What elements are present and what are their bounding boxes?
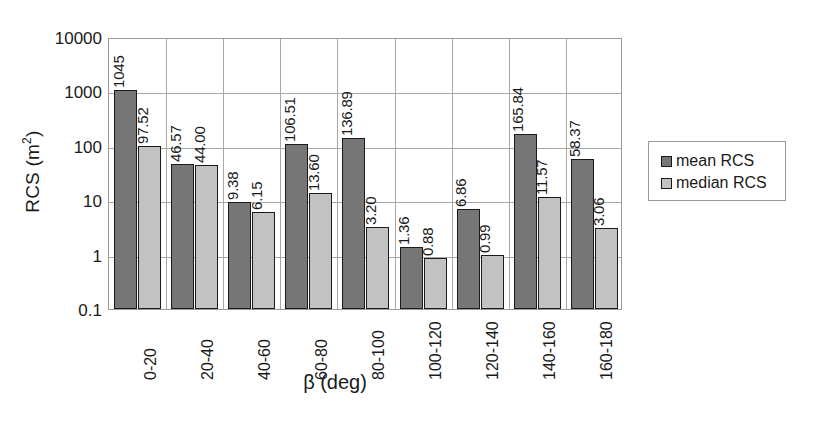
bar-value-label: 6.86 <box>453 179 468 207</box>
y-tick-label: 1000 <box>16 84 102 101</box>
x-tick-label: 120-140 <box>485 321 501 380</box>
bar-median-rcs[interactable]: 3.06 <box>595 228 618 309</box>
bar-group: 1.360.88 <box>395 39 452 309</box>
bar-value-label: 46.57 <box>168 125 183 162</box>
bar-median-rcs[interactable]: 13.60 <box>309 193 332 309</box>
bar-value-label: 1045 <box>111 56 126 89</box>
bar-value-label: 165.84 <box>510 87 525 132</box>
bar-mean-rcs[interactable]: 9.38 <box>228 202 251 309</box>
y-tick-label: 1 <box>16 247 102 264</box>
bar-value-label: 44.00 <box>192 127 207 164</box>
bar-mean-rcs[interactable]: 58.37 <box>571 159 594 309</box>
y-tick-label: 10 <box>16 193 102 210</box>
bar-value-label: 0.88 <box>420 227 435 255</box>
bar-median-rcs[interactable]: 97.52 <box>138 146 161 309</box>
x-tick-label: 140-160 <box>542 321 558 380</box>
bar-median-rcs[interactable]: 3.20 <box>366 227 389 309</box>
bar-value-label: 58.37 <box>567 120 582 157</box>
bar-group: 9.386.15 <box>223 39 280 309</box>
x-axis-title: β (deg) <box>255 371 415 394</box>
bar-mean-rcs[interactable]: 46.57 <box>171 164 194 309</box>
bar-value-label: 9.38 <box>225 171 240 199</box>
bar-group: 165.8411.57 <box>509 39 566 309</box>
bar-group: 58.373.06 <box>566 39 623 309</box>
bar-median-rcs[interactable]: 0.99 <box>481 255 504 309</box>
bar-value-label: 3.20 <box>363 197 378 225</box>
bar-value-label: 106.51 <box>282 98 297 143</box>
y-tick-label: 100 <box>16 138 102 155</box>
bar-median-rcs[interactable]: 44.00 <box>195 165 218 309</box>
x-tick-label: 160-180 <box>599 321 615 380</box>
bar-value-label: 0.99 <box>477 224 492 252</box>
legend-label: mean RCS <box>676 152 754 170</box>
bar-value-label: 3.06 <box>591 198 606 226</box>
bar-groups: 104597.5246.5744.009.386.15106.5113.6013… <box>109 39 621 309</box>
bar-value-label: 136.89 <box>339 92 354 137</box>
chart-legend: mean RCSmedian RCS <box>648 141 786 201</box>
bar-value-label: 6.15 <box>249 181 264 209</box>
bar-median-rcs[interactable]: 0.88 <box>424 258 447 309</box>
bar-value-label: 1.36 <box>396 217 411 245</box>
rcs-bar-chart: RCS (m2) 1000010001001010.1 104597.5246.… <box>0 0 817 425</box>
bar-value-label: 97.52 <box>135 108 150 145</box>
x-tick-label: 0-20 <box>143 348 159 380</box>
bar-group: 106.5113.60 <box>280 39 337 309</box>
y-axis-ticks: 1000010001001010.1 <box>14 0 102 425</box>
bar-group: 136.893.20 <box>337 39 394 309</box>
bar-group: 6.860.99 <box>452 39 509 309</box>
plot-area: 104597.5246.5744.009.386.15106.5113.6013… <box>108 38 622 310</box>
legend-swatch <box>661 178 672 189</box>
legend-item[interactable]: median RCS <box>661 172 785 194</box>
bar-median-rcs[interactable]: 6.15 <box>252 212 275 309</box>
legend-label: median RCS <box>676 174 767 192</box>
y-tick-label: 10000 <box>16 30 102 47</box>
y-tick-label: 0.1 <box>16 302 102 319</box>
legend-item[interactable]: mean RCS <box>661 150 785 172</box>
bar-median-rcs[interactable]: 11.57 <box>538 197 561 309</box>
legend-swatch <box>661 156 672 167</box>
x-tick-label: 20-40 <box>200 339 216 380</box>
bar-value-label: 13.60 <box>306 154 321 191</box>
x-tick-label: 100-120 <box>428 321 444 380</box>
bar-group: 46.5744.00 <box>166 39 223 309</box>
bar-value-label: 11.57 <box>534 159 549 194</box>
bar-group: 104597.52 <box>109 39 166 309</box>
bar-mean-rcs[interactable]: 1.36 <box>400 247 423 309</box>
